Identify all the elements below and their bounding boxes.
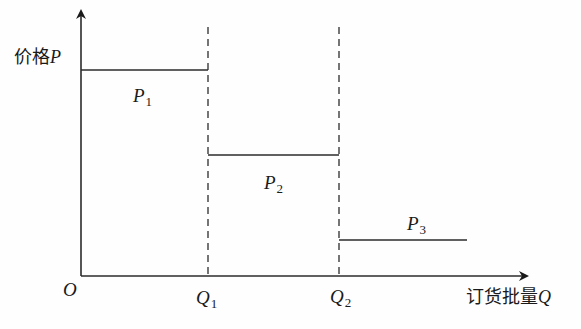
q2-tick-sub: 2	[345, 295, 352, 310]
p3-label-main: P	[407, 213, 419, 234]
p2-label-main: P	[264, 172, 276, 193]
p2-label: P2	[264, 173, 283, 192]
x-axis-label-var: Q	[538, 287, 551, 307]
x-axis-label: 订货批量Q	[466, 288, 551, 306]
y-axis-label-text: 价格	[14, 46, 50, 67]
q1-tick-sub: 1	[211, 296, 218, 311]
chart-canvas	[0, 0, 581, 329]
price-quantity-discount-chart: 价格P P1 P2 P3 O Q1 Q2 订货批量Q	[0, 0, 581, 329]
q1-tick-label: Q1	[196, 288, 217, 307]
q1-tick-main: Q	[196, 287, 210, 308]
p3-label: P3	[407, 214, 426, 233]
y-axis-label-var: P	[50, 47, 61, 67]
q2-tick-main: Q	[330, 286, 344, 307]
origin-label: O	[63, 280, 77, 299]
p1-label-main: P	[133, 85, 145, 106]
q2-tick-label: Q2	[330, 287, 351, 306]
p1-label: P1	[133, 86, 152, 105]
p2-label-sub: 2	[277, 181, 284, 196]
p1-label-sub: 1	[146, 94, 153, 109]
origin-label-text: O	[63, 279, 77, 300]
x-axis-label-text: 订货批量	[466, 286, 538, 307]
p3-label-sub: 3	[420, 222, 427, 237]
y-axis-label: 价格P	[14, 48, 61, 66]
